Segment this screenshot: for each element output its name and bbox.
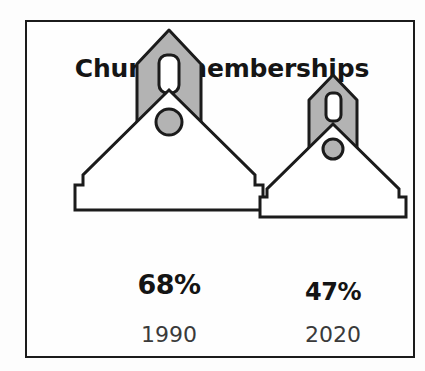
value-label-1990: 68% bbox=[74, 269, 264, 300]
value-label-2020: 47% bbox=[258, 278, 408, 306]
tower-window-2020 bbox=[326, 93, 341, 121]
tower-window-1990 bbox=[159, 55, 179, 93]
church-pictogram-2020: 47% 2020 bbox=[258, 22, 408, 360]
rose-window-1990 bbox=[156, 109, 182, 135]
category-label-1990: 1990 bbox=[74, 322, 264, 347]
chart-frame-border: Church memberships 68% 1990 bbox=[25, 20, 415, 358]
church-pictogram-1990: 68% 1990 bbox=[74, 22, 264, 360]
chart-image-root: Church memberships 68% 1990 bbox=[0, 0, 425, 371]
category-label-2020: 2020 bbox=[258, 322, 408, 347]
rose-window-2020 bbox=[323, 139, 343, 159]
church-shape-2020 bbox=[258, 22, 408, 322]
